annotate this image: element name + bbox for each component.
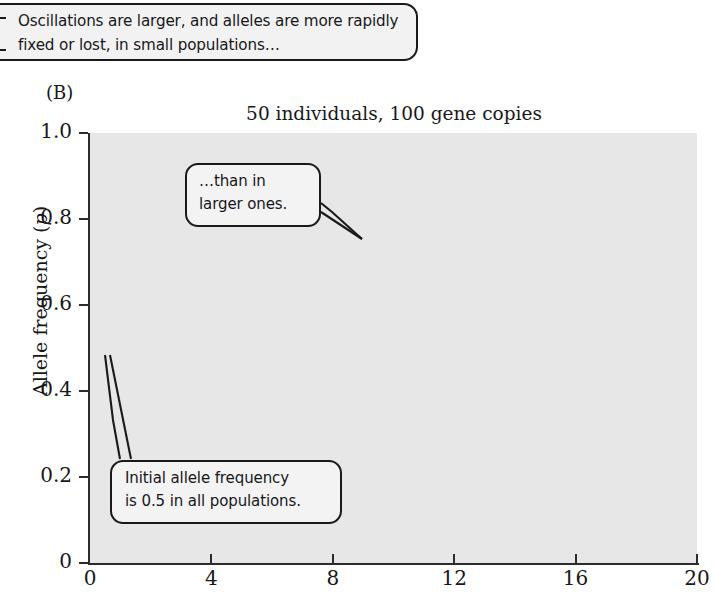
y-tick-mark <box>79 562 88 564</box>
y-tick-mark <box>79 304 88 306</box>
y-tick-label: 0.2 <box>8 463 72 487</box>
caption-callout-tail <box>0 17 6 51</box>
chart-title: 50 individuals, 100 gene copies <box>90 103 698 124</box>
caption-callout: Oscillations are larger, and alleles are… <box>0 3 418 61</box>
x-tick-label: 4 <box>181 566 241 590</box>
annotation-larger-line1: …than in <box>199 170 319 193</box>
x-tick-label: 20 <box>667 566 714 590</box>
y-tick-mark <box>79 132 88 134</box>
caption-text: Oscillations are larger, and alleles are… <box>18 9 410 57</box>
annotation-initial-line1: Initial allele frequency <box>125 467 340 490</box>
panel-label: (B) <box>46 82 73 103</box>
x-tick-mark <box>332 554 334 563</box>
annotation-callout-initial-frequency: Initial allele frequency is 0.5 in all p… <box>110 460 342 524</box>
x-tick-label: 16 <box>546 566 606 590</box>
x-axis-line <box>88 563 699 565</box>
y-tick-label: 0.4 <box>8 377 72 401</box>
y-tick-label: 1.0 <box>8 119 72 143</box>
x-tick-label: 0 <box>60 566 120 590</box>
annotation-initial-line2: is 0.5 in all populations. <box>125 490 340 513</box>
x-tick-mark <box>210 554 212 563</box>
y-tick-mark <box>79 218 88 220</box>
y-tick-mark <box>79 476 88 478</box>
x-tick-mark <box>453 554 455 563</box>
y-tick-label: 0.8 <box>8 205 72 229</box>
y-axis-line <box>88 133 90 565</box>
x-tick-label: 12 <box>424 566 484 590</box>
y-tick-label: 0.6 <box>8 291 72 315</box>
x-tick-mark <box>696 554 698 563</box>
x-tick-mark <box>575 554 577 563</box>
x-tick-label: 8 <box>303 566 363 590</box>
annotation-larger-line2: larger ones. <box>199 193 319 216</box>
annotation-callout-larger-ones: …than in larger ones. <box>185 163 321 227</box>
y-tick-mark <box>79 390 88 392</box>
